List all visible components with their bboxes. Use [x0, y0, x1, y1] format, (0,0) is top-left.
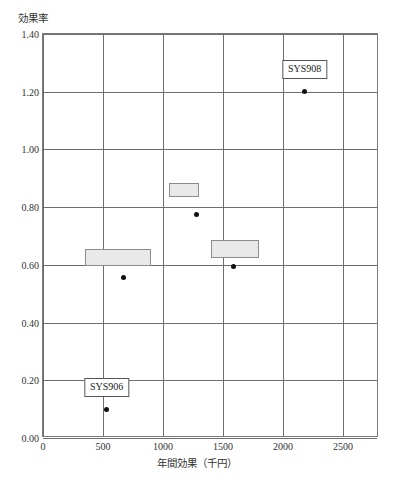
box-right — [211, 240, 259, 257]
y-tick-label: 0.20 — [22, 375, 40, 386]
gridline-horizontal — [43, 323, 377, 324]
y-axis-title: 効果率 — [18, 10, 48, 25]
gridline-horizontal — [43, 207, 377, 208]
gridline-vertical — [283, 34, 284, 436]
gridline-vertical — [43, 34, 44, 436]
point-b — [194, 212, 199, 217]
y-tick-label: 1.40 — [22, 29, 40, 40]
x-tick-label: 1000 — [153, 441, 173, 452]
gridline-horizontal — [43, 34, 377, 35]
x-tick-label: 2500 — [333, 441, 353, 452]
gridline-vertical — [343, 34, 344, 436]
chart-figure: 効果率 0.000.200.400.600.801.001.201.40 050… — [0, 0, 393, 480]
gridline-vertical — [223, 34, 224, 436]
gridlines — [43, 34, 377, 436]
y-tick-label: 0.80 — [22, 202, 40, 213]
box-left — [85, 249, 151, 266]
box-middle — [169, 183, 199, 197]
callout-sys906: SYS906 — [84, 378, 129, 397]
gridline-vertical — [103, 34, 104, 436]
y-tick-label: 0.60 — [22, 259, 40, 270]
x-tick-label: 500 — [96, 441, 111, 452]
gridline-vertical — [163, 34, 164, 436]
y-tick-label: 0.00 — [22, 433, 40, 444]
gridline-horizontal — [43, 149, 377, 150]
x-axis-title: 年間効果（千円） — [0, 455, 393, 470]
x-tick-label: 0 — [41, 441, 46, 452]
callout-sys908: SYS908 — [282, 60, 327, 79]
plot-area: 0.000.200.400.600.801.001.201.40 0500100… — [42, 33, 378, 437]
gridline-horizontal — [43, 438, 377, 439]
y-tick-label: 1.20 — [22, 86, 40, 97]
y-tick-label: 0.40 — [22, 317, 40, 328]
x-tick-label: 1500 — [213, 441, 233, 452]
x-tick-label: 2000 — [273, 441, 293, 452]
gridline-horizontal — [43, 92, 377, 93]
y-tick-label: 1.00 — [22, 144, 40, 155]
